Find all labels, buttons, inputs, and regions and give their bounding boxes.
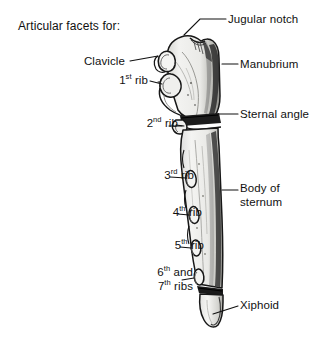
label-first-rib: 1st rib <box>96 74 148 87</box>
label-jugular-notch: Jugular notch <box>228 13 298 26</box>
leader-xiphoid <box>213 306 238 314</box>
sternum-anatomical-figure: Articular facets for: Jugular notch Manu… <box>0 0 323 337</box>
label-body-of-sternum-line2: sternum <box>240 196 282 209</box>
seventh-rib-suffix: th <box>164 278 170 287</box>
page-title: Articular facets for: <box>18 20 120 33</box>
first-rib-word: rib <box>135 74 148 86</box>
sixth-rib-suffix: th <box>164 264 170 273</box>
second-rib-word: rib <box>165 117 178 129</box>
second-rib-suffix: nd <box>153 115 162 124</box>
label-fifth-rib: 5th rib <box>152 239 204 252</box>
label-manubrium: Manubrium <box>240 58 298 71</box>
sixth-rib-word: and <box>174 266 194 278</box>
first-rib-suffix: st <box>126 72 132 81</box>
fourth-rib-word: rib <box>189 206 202 218</box>
label-second-rib: 2nd rib <box>126 117 178 130</box>
third-rib-suffix: rd <box>171 167 178 176</box>
leader-jugular-notch <box>184 19 226 35</box>
fourth-rib-suffix: th <box>179 204 185 213</box>
leader-clavicle <box>130 56 158 61</box>
seventh-rib-word: ribs <box>174 280 193 292</box>
fifth-rib-suffix: th <box>181 237 187 246</box>
label-body-of-sternum-line1: Body of <box>240 182 280 195</box>
label-third-rib: 3rd rib <box>142 169 194 182</box>
label-sternal-angle: Sternal angle <box>240 108 309 121</box>
third-rib-word: rib <box>181 169 194 181</box>
label-xiphoid: Xiphoid <box>240 299 279 312</box>
label-sixth-rib: 6th and <box>133 266 193 279</box>
label-clavicle: Clavicle <box>73 55 125 68</box>
label-fourth-rib: 4th rib <box>150 206 202 219</box>
fifth-rib-word: rib <box>191 239 204 251</box>
label-seventh-ribs: 7th ribs <box>133 280 193 293</box>
